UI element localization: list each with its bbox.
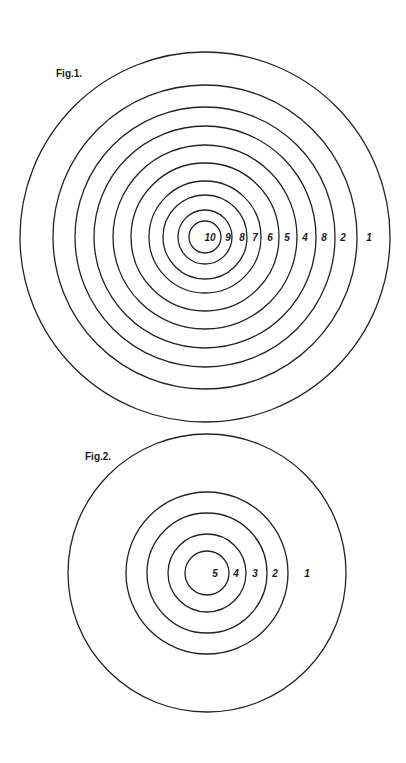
ring-score-number: 1 [304, 568, 310, 579]
ring-score-number: 8 [321, 232, 327, 243]
ring-score-number: 5 [212, 568, 218, 579]
target-diagram-canvas: Fig.1. 10987654821 Fig.2. 54321 [0, 0, 406, 763]
ring-score-number: 1 [366, 232, 372, 243]
ring-score-number: 5 [284, 232, 290, 243]
ring-score-number: 6 [267, 232, 273, 243]
ring-score-number: 7 [252, 232, 258, 243]
figure-2-target: Fig.2. 54321 [68, 434, 346, 712]
ring-score-number: 4 [232, 568, 239, 579]
ring-circle [126, 492, 288, 654]
ring-score-number: 3 [252, 568, 258, 579]
ring-score-number: 2 [339, 232, 346, 243]
figure-2-label: Fig.2. [85, 451, 111, 462]
ring-score-number: 8 [239, 232, 245, 243]
figure-1-label: Fig.1. [56, 68, 82, 79]
ring-score-number: 10 [204, 232, 216, 243]
ring-score-number: 2 [271, 568, 278, 579]
ring-circle [147, 513, 267, 633]
figure-1-ring-numbers: 10987654821 [204, 232, 372, 243]
ring-circle [185, 551, 229, 595]
ring-score-number: 4 [301, 232, 308, 243]
figure-1-target: Fig.1. 10987654821 [20, 52, 390, 422]
ring-score-number: 9 [225, 232, 231, 243]
figure-2-ring-numbers: 54321 [212, 568, 310, 579]
